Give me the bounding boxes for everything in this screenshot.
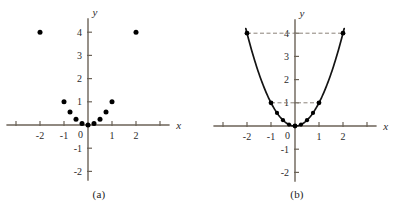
- data-point: [311, 111, 315, 115]
- y-tick-label: 1: [77, 96, 82, 107]
- y-tick-label: -2: [281, 167, 289, 178]
- x-tick-label: 2: [134, 130, 139, 141]
- data-point: [245, 31, 250, 36]
- data-point: [281, 118, 285, 122]
- x-tick-label: -2: [36, 130, 44, 141]
- origin-label: 0: [78, 129, 83, 140]
- y-tick-label: 2: [77, 73, 82, 84]
- y-tick-label: -2: [74, 166, 82, 177]
- x-tick-label: 1: [317, 131, 322, 142]
- x-tick-label: 1: [110, 130, 115, 141]
- parabola-plot-b: -2-1124321-1-20 xy: [198, 0, 396, 216]
- panel-b: -2-1124321-1-20 xy (b): [198, 0, 396, 216]
- data-point: [293, 124, 298, 129]
- y-axis-label: y: [299, 7, 305, 19]
- data-point: [74, 117, 79, 122]
- data-point: [299, 122, 303, 126]
- axes-group-a: [6, 18, 169, 180]
- origin-label: 0: [285, 130, 290, 141]
- x-tick-label: -2: [243, 131, 251, 142]
- x-tick-label: 2: [341, 131, 346, 142]
- x-tick-label: -1: [60, 130, 68, 141]
- figure-container: -2-1124321-1-20 xy (a) -2-1124321-1-20 x…: [0, 0, 396, 216]
- y-tick-label: -1: [281, 144, 289, 155]
- data-point: [287, 122, 291, 126]
- data-point: [104, 109, 109, 114]
- data-point: [305, 118, 309, 122]
- y-tick-label: 4: [77, 27, 82, 38]
- panel-a-caption: (a): [0, 188, 198, 200]
- scatter-plot-a: -2-1124321-1-20 xy: [0, 0, 198, 216]
- x-axis-label: x: [175, 119, 181, 131]
- panel-b-caption: (b): [198, 188, 396, 200]
- data-point: [134, 30, 139, 35]
- data-point: [68, 109, 73, 114]
- x-tick-label: -1: [267, 131, 275, 142]
- data-point: [38, 30, 43, 35]
- panel-a: -2-1124321-1-20 xy (a): [0, 0, 198, 216]
- data-point: [269, 100, 274, 105]
- x-axis-label: x: [382, 120, 388, 132]
- data-point: [92, 121, 97, 126]
- data-point: [110, 99, 115, 104]
- y-tick-label: 2: [284, 74, 289, 85]
- y-tick-label: 3: [77, 50, 82, 61]
- y-axis-label: y: [92, 6, 98, 18]
- data-point: [62, 99, 67, 104]
- data-point: [98, 117, 103, 122]
- data-point: [317, 100, 322, 105]
- data-point: [275, 111, 279, 115]
- data-point: [86, 123, 91, 128]
- y-tick-label: -1: [74, 143, 82, 154]
- data-point: [80, 121, 85, 126]
- y-tick-label: 3: [284, 51, 289, 62]
- data-point: [341, 31, 346, 36]
- axes-group-b: [213, 19, 376, 181]
